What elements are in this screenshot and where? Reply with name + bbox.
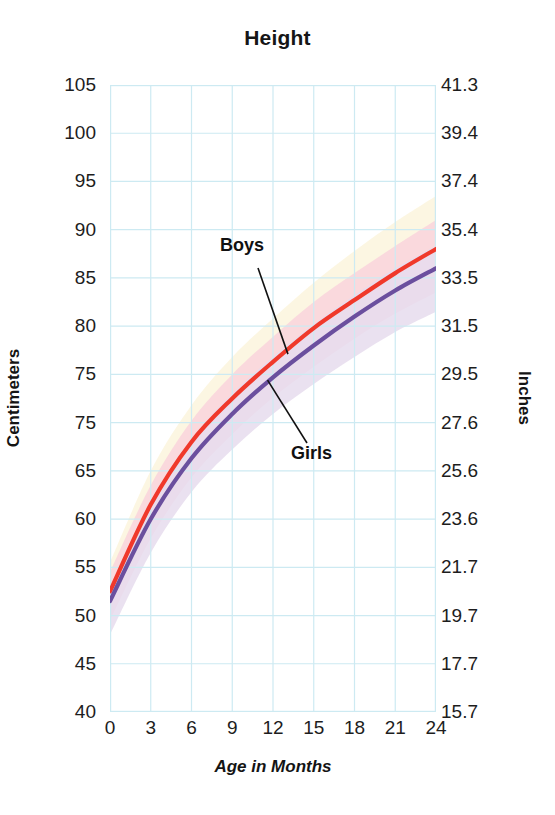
- x-tick-label: 9: [227, 717, 238, 739]
- girls-series-label: Girls: [291, 443, 332, 464]
- y-tick-label: 50: [75, 605, 96, 627]
- secondary-y-tick-label: 39.4: [441, 122, 478, 144]
- y-tick-label: 45: [75, 653, 96, 675]
- secondary-y-tick-label: 35.4: [441, 219, 478, 241]
- height-growth-chart: Height Centimeters Inches 10510095908580…: [0, 0, 555, 815]
- y-axis-tick-labels: 105100959085807575656055504540: [0, 0, 104, 815]
- secondary-y-tick-label: 21.7: [441, 556, 478, 578]
- gridlines: [110, 85, 436, 712]
- x-tick-label: 21: [385, 717, 406, 739]
- secondary-y-axis-tick-labels: 41.339.437.435.433.531.529.527.625.623.6…: [441, 0, 531, 815]
- secondary-y-tick-label: 25.6: [441, 460, 478, 482]
- x-tick-label: 3: [145, 717, 156, 739]
- y-tick-label: 105: [64, 74, 96, 96]
- y-tick-label: 60: [75, 508, 96, 530]
- x-tick-label: 12: [262, 717, 283, 739]
- y-tick-label: 85: [75, 267, 96, 289]
- y-tick-label: 75: [75, 363, 96, 385]
- x-tick-label: 24: [425, 717, 446, 739]
- secondary-y-tick-label: 19.7: [441, 605, 478, 627]
- x-axis-title: Age in Months: [110, 757, 436, 777]
- secondary-y-tick-label: 31.5: [441, 315, 478, 337]
- x-tick-label: 15: [303, 717, 324, 739]
- x-tick-label: 0: [105, 717, 116, 739]
- secondary-y-tick-label: 27.6: [441, 412, 478, 434]
- x-tick-label: 6: [186, 717, 197, 739]
- y-tick-label: 95: [75, 170, 96, 192]
- plot-area: [110, 85, 436, 712]
- x-axis-tick-labels: 03691215182124: [0, 717, 555, 747]
- secondary-y-tick-label: 29.5: [441, 363, 478, 385]
- y-tick-label: 55: [75, 556, 96, 578]
- secondary-y-tick-label: 33.5: [441, 267, 478, 289]
- y-tick-label: 75: [75, 412, 96, 434]
- secondary-y-tick-label: 17.7: [441, 653, 478, 675]
- x-tick-label: 18: [344, 717, 365, 739]
- y-tick-label: 90: [75, 219, 96, 241]
- plot-svg: [110, 85, 436, 712]
- secondary-y-tick-label: 41.3: [441, 74, 478, 96]
- y-tick-label: 100: [64, 122, 96, 144]
- secondary-y-tick-label: 23.6: [441, 508, 478, 530]
- secondary-y-tick-label: 37.4: [441, 170, 478, 192]
- boys-series-label: Boys: [220, 235, 264, 256]
- y-tick-label: 80: [75, 315, 96, 337]
- y-tick-label: 65: [75, 460, 96, 482]
